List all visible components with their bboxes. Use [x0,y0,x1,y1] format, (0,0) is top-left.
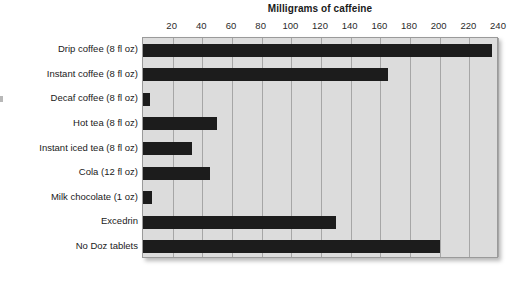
x-tick-label: 140 [342,20,358,31]
bar [143,44,492,57]
y-axis: Drip coffee (8 fl oz)Instant coffee (8 f… [0,37,138,258]
x-tick-label: 180 [401,20,417,31]
y-category-label: Hot tea (8 fl oz) [73,118,138,128]
bar [143,142,192,155]
scan-artifact [0,96,3,102]
x-tick-label: 20 [166,20,177,31]
y-category-label: Drip coffee (8 fl oz) [58,44,138,54]
x-tick-label: 200 [431,20,447,31]
chart-title: Milligrams of caffeine [142,3,498,14]
caffeine-bar-chart: Milligrams of caffeine 20406080100120140… [0,0,522,286]
y-category-label: Decaf coffee (8 fl oz) [51,93,138,103]
y-category-label: Instant coffee (8 fl oz) [47,69,138,79]
bar-row [143,191,497,204]
bar [143,191,152,204]
bar-row [143,117,497,130]
bar-row [143,44,497,57]
bar [143,240,440,253]
bar-row [143,68,497,81]
y-category-label: Excedrin [101,216,138,226]
y-category-label: No Doz tablets [76,241,138,251]
bar [143,167,210,180]
y-category-label: Milk chocolate (1 oz) [51,192,138,202]
bar [143,216,336,229]
bars-layer [143,38,497,257]
bar [143,68,388,81]
bar [143,117,217,130]
x-tick-label: 80 [255,20,266,31]
bar-row [143,216,497,229]
x-tick-label: 40 [196,20,207,31]
x-tick-label: 160 [371,20,387,31]
x-tick-label: 100 [282,20,298,31]
x-tick-label: 240 [490,20,506,31]
bar-row [143,240,497,253]
x-tick-label: 60 [226,20,237,31]
bar-row [143,167,497,180]
bar-row [143,93,497,106]
y-category-label: Instant iced tea (8 fl oz) [39,143,138,153]
bar-row [143,142,497,155]
x-axis: 20406080100120140160180200220240 [142,20,498,37]
bar [143,93,150,106]
y-category-label: Cola (12 fl oz) [79,167,138,177]
gridline [498,38,499,257]
x-tick-label: 120 [312,20,328,31]
plot-area [142,37,498,258]
x-tick-label: 220 [460,20,476,31]
